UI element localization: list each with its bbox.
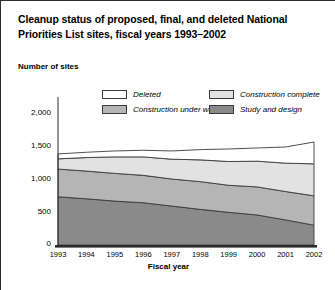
x-tick-label: 2002: [297, 250, 331, 259]
stacked-area-plot: [1, 1, 335, 290]
y-tick-label: 500: [9, 207, 51, 216]
y-tick-label: 0: [9, 239, 51, 248]
y-tick-label: 2,000: [9, 108, 51, 117]
x-axis-line: [55, 245, 317, 248]
figure-panel: Cleanup status of proposed, final, and d…: [0, 0, 335, 290]
y-tick-label: 1,000: [9, 174, 51, 183]
y-tick-label: 1,500: [9, 141, 51, 150]
x-axis-title: Fiscal year: [1, 262, 335, 271]
